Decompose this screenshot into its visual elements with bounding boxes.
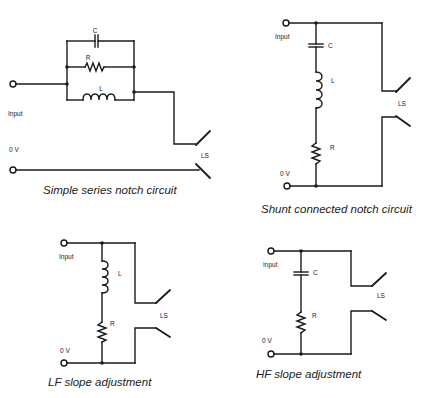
inductor-l bbox=[102, 261, 108, 293]
label-ls: LS bbox=[160, 312, 169, 319]
circuit-diagrams-canvas: C R L Input 0 V LS Simple series notch c… bbox=[0, 0, 427, 398]
label-r: R bbox=[312, 312, 317, 319]
label-ls: LS bbox=[201, 152, 210, 159]
input-terminal bbox=[61, 240, 67, 246]
label-0v: 0 V bbox=[9, 146, 19, 153]
zero-v-terminal bbox=[10, 167, 16, 173]
zero-v-terminal bbox=[61, 360, 67, 366]
input-terminal bbox=[268, 248, 274, 254]
series-notch-circuit: C R L Input 0 V LS Simple series notch c… bbox=[8, 27, 210, 196]
capacitor-c bbox=[95, 35, 98, 47]
label-ls: LS bbox=[398, 100, 407, 107]
resistor-r bbox=[297, 312, 305, 333]
label-input: Input bbox=[59, 253, 74, 261]
resistor-r bbox=[85, 63, 104, 71]
label-ls: LS bbox=[377, 292, 386, 299]
label-r: R bbox=[86, 54, 91, 61]
label-l: L bbox=[99, 85, 103, 92]
caption-series-notch: Simple series notch circuit bbox=[43, 184, 177, 196]
label-input: Input bbox=[275, 33, 290, 41]
label-input: Input bbox=[263, 261, 278, 269]
caption-hf-slope: HF slope adjustment bbox=[256, 368, 362, 380]
caption-lf-slope: LF slope adjustment bbox=[48, 376, 152, 388]
zero-v-terminal bbox=[284, 183, 290, 189]
label-l: L bbox=[118, 270, 122, 277]
label-l: L bbox=[331, 77, 335, 84]
shunt-notch-circuit: Input C L R 0 V LS Shunt connected notch… bbox=[261, 20, 413, 215]
zero-v-terminal bbox=[268, 351, 274, 357]
resistor-r bbox=[98, 322, 106, 342]
label-0v: 0 V bbox=[262, 337, 272, 344]
label-c: C bbox=[93, 27, 98, 34]
label-0v: 0 V bbox=[60, 347, 70, 354]
label-r: R bbox=[330, 144, 335, 151]
lf-slope-circuit: Input L R 0 V LS LF slope adjustment bbox=[48, 240, 170, 388]
inductor-l bbox=[83, 94, 115, 100]
label-c: C bbox=[328, 42, 333, 49]
label-r: R bbox=[110, 320, 115, 327]
resistor-r bbox=[312, 143, 320, 164]
hf-slope-circuit: Input C R 0 V LS HF slope adjustment bbox=[256, 248, 386, 380]
label-0v: 0 V bbox=[280, 170, 290, 177]
input-terminal bbox=[10, 81, 16, 87]
inductor-l bbox=[316, 72, 322, 108]
caption-shunt-notch: Shunt connected notch circuit bbox=[261, 203, 413, 215]
input-terminal bbox=[283, 20, 289, 26]
label-input: Input bbox=[8, 110, 23, 118]
label-c: C bbox=[313, 269, 318, 276]
